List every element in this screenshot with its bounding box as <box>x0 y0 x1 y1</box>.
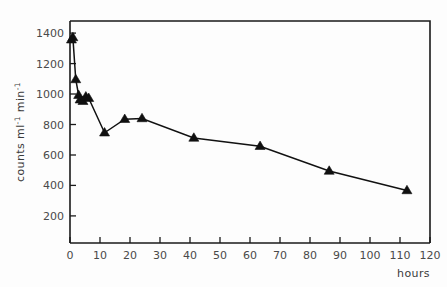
y-axis-title-text: counts ml-1 min-1 <box>13 82 27 182</box>
data-point-marker <box>71 74 81 82</box>
x-tick-label: 90 <box>333 249 347 262</box>
x-tick-label: 110 <box>390 249 411 262</box>
y-tick-label: 800 <box>43 119 64 132</box>
y-axis-title-base1: counts ml <box>14 124 27 182</box>
chart-page: 1400 1200 1000 800 600 400 200 0 <box>0 0 447 287</box>
y-tick-label: 1000 <box>36 88 64 101</box>
y-axis-title-sup1: -1 <box>13 116 22 124</box>
y-axis-title-base2: min <box>14 90 27 116</box>
x-tick-label: 50 <box>213 249 227 262</box>
chart-figure: 1400 1200 1000 800 600 400 200 0 <box>0 0 447 287</box>
x-tick-label: 0 <box>67 249 74 262</box>
y-tick-label: 400 <box>43 179 64 192</box>
data-point-marker <box>120 114 130 122</box>
x-axis-ticks <box>70 237 430 243</box>
x-tick-label: 80 <box>303 249 317 262</box>
x-axis-title: hours <box>397 267 430 280</box>
frame-top-right <box>70 21 430 243</box>
data-series-counts <box>66 32 412 193</box>
x-tick-label: 60 <box>243 249 257 262</box>
y-axis-title: counts ml-1 min-1 <box>13 82 27 182</box>
x-tick-label: 120 <box>420 249 441 262</box>
data-point-marker <box>137 113 147 121</box>
y-axis-tick-labels: 1400 1200 1000 800 600 400 200 <box>36 27 64 223</box>
y-tick-label: 1400 <box>36 27 64 40</box>
series-line <box>71 38 407 191</box>
series-markers <box>66 32 412 193</box>
y-tick-label: 200 <box>43 210 64 223</box>
data-point-marker <box>100 128 110 136</box>
x-axis-tick-labels: 0 10 20 30 40 50 60 70 80 90 100 110 120 <box>67 249 441 262</box>
y-axis-title-sup2: -1 <box>13 82 22 90</box>
plot-frame <box>70 21 430 243</box>
x-tick-label: 30 <box>153 249 167 262</box>
y-tick-label: 600 <box>43 149 64 162</box>
x-tick-label: 20 <box>123 249 137 262</box>
x-tick-label: 10 <box>93 249 107 262</box>
x-tick-label: 70 <box>273 249 287 262</box>
x-tick-label: 40 <box>183 249 197 262</box>
x-tick-label: 100 <box>360 249 381 262</box>
y-tick-label: 1200 <box>36 58 64 71</box>
